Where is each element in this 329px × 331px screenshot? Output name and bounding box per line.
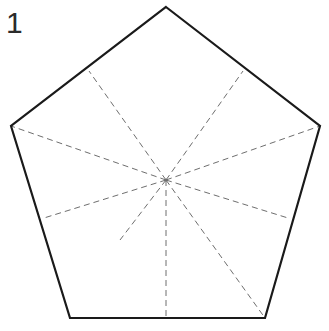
pentagon-diagram bbox=[0, 0, 329, 331]
fold-to-right-vertex bbox=[166, 126, 320, 180]
fold-to-upper-right-edge bbox=[166, 71, 243, 180]
fold-to-upper-left-edge bbox=[89, 71, 166, 180]
center-point-marker bbox=[164, 178, 167, 181]
fold-to-left-vertex bbox=[11, 126, 166, 180]
fold-lines-group bbox=[11, 71, 320, 318]
fold-to-lower-left-edge bbox=[44, 180, 166, 218]
step-number-label: 1 bbox=[6, 8, 23, 38]
fold-to-bottom-right-vertex bbox=[166, 180, 265, 318]
fold-lower-left-short bbox=[120, 180, 166, 240]
fold-to-lower-right-edge bbox=[166, 180, 288, 218]
figure-canvas: 1 bbox=[0, 0, 329, 331]
